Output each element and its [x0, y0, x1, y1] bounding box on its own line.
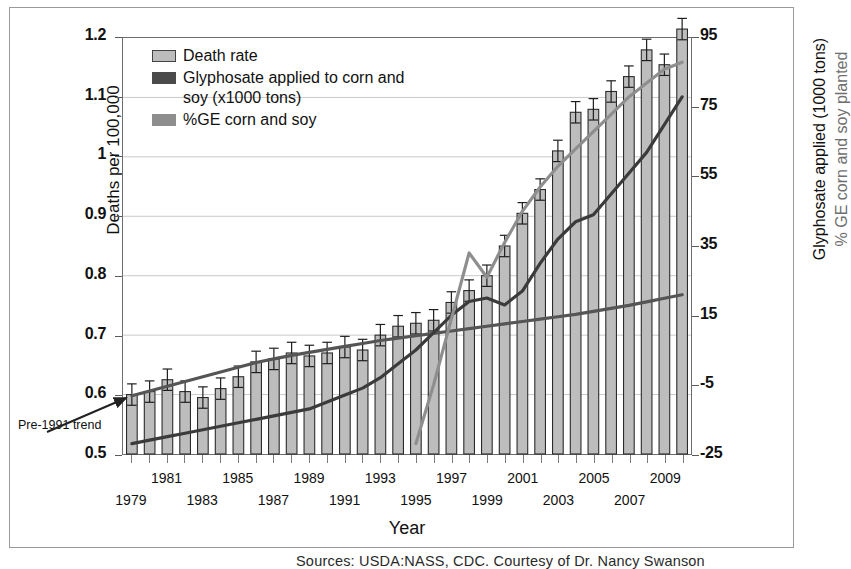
x-tick	[576, 455, 577, 463]
x-tick	[273, 455, 274, 463]
x-tick	[558, 455, 559, 463]
y-tick-left	[115, 455, 122, 456]
legend-swatch-death-rate	[152, 50, 176, 62]
y-tick-label-right: -25	[700, 444, 722, 462]
x-tick	[434, 455, 435, 463]
x-tick	[612, 455, 613, 463]
y-axis-right-title-percent-ge: % GE corn and soy planted	[833, 19, 851, 279]
x-tick	[220, 455, 221, 463]
x-tick	[345, 455, 346, 463]
x-tick	[131, 455, 132, 463]
x-tick-label: 1979	[107, 492, 155, 508]
x-tick	[416, 455, 417, 463]
y-tick-left	[115, 216, 122, 217]
y-tick-label-left: 0.8	[85, 265, 106, 283]
x-tick-label: 1987	[249, 492, 297, 508]
x-tick-label: 1999	[463, 492, 511, 508]
x-tick	[630, 455, 631, 463]
x-tick	[149, 455, 150, 463]
x-tick	[380, 455, 381, 463]
legend-swatch-glyphosate	[152, 72, 176, 84]
x-tick-label: 1997	[428, 470, 476, 486]
y-tick-right	[692, 37, 699, 38]
x-tick	[256, 455, 257, 463]
y-tick-label-left: 0.9	[85, 205, 106, 223]
x-tick	[594, 455, 595, 463]
legend-item-percent-ge: %GE corn and soy	[152, 110, 433, 130]
y-tick-label-right: 15	[700, 305, 717, 323]
x-tick-label: 2003	[534, 492, 582, 508]
y-tick-right	[692, 316, 699, 317]
legend-label-death-rate: Death rate	[183, 46, 258, 66]
x-tick	[683, 455, 684, 463]
figure-caption: Sources: USDA:NASS, CDC. Courtesy of Dr.…	[296, 553, 705, 569]
x-tick	[327, 455, 328, 463]
legend-swatch-percent-ge	[152, 114, 176, 126]
x-tick	[291, 455, 292, 463]
y-tick-label-left: 1	[97, 145, 106, 163]
x-tick-label: 1989	[285, 470, 333, 486]
x-tick-label: 1983	[178, 492, 226, 508]
y-tick-label-right: -5	[700, 374, 714, 392]
x-tick	[452, 455, 453, 463]
y-tick-label-left: 0.7	[85, 325, 106, 343]
x-tick	[523, 455, 524, 463]
y-tick-label-right: 95	[700, 26, 717, 44]
x-tick-label: 2005	[570, 470, 618, 486]
x-tick	[362, 455, 363, 463]
y-tick-label-left: 1.1	[85, 86, 106, 104]
y-tick-left	[115, 156, 122, 157]
y-tick-label-left: 0.5	[85, 444, 106, 462]
y-tick-left	[115, 37, 122, 38]
y-tick-right	[692, 107, 699, 108]
legend-label-glyphosate: Glyphosate applied to corn and soy (x100…	[183, 68, 433, 108]
x-tick-label: 1981	[143, 470, 191, 486]
x-tick	[167, 455, 168, 463]
y-tick-left	[115, 336, 122, 337]
y-tick-label-right: 35	[700, 235, 717, 253]
y-tick-left	[115, 395, 122, 396]
x-tick	[469, 455, 470, 463]
x-axis-title: Year	[122, 518, 692, 539]
y-axis-left-title: Deaths per 100,000	[104, 40, 124, 280]
legend-item-glyphosate: Glyphosate applied to corn and soy (x100…	[152, 68, 433, 108]
x-tick	[238, 455, 239, 463]
x-tick-label: 2001	[499, 470, 547, 486]
y-tick-right	[692, 455, 699, 456]
x-tick	[665, 455, 666, 463]
y-tick-right	[692, 176, 699, 177]
y-tick-label-right: 55	[700, 165, 717, 183]
legend-item-death-rate: Death rate	[152, 46, 433, 66]
y-tick-label-left: 1.2	[85, 26, 106, 44]
x-tick	[541, 455, 542, 463]
y-axis-right-title-glyphosate: Glyphosate applied (1000 tons)	[811, 19, 829, 279]
y-tick-label-right: 75	[700, 96, 717, 114]
y-tick-label-left: 0.6	[85, 384, 106, 402]
x-tick-label: 2009	[641, 470, 689, 486]
x-tick-label: 1993	[356, 470, 404, 486]
x-tick	[202, 455, 203, 463]
x-tick	[309, 455, 310, 463]
x-tick	[647, 455, 648, 463]
x-tick-label: 1985	[214, 470, 262, 486]
x-tick	[184, 455, 185, 463]
legend: Death rateGlyphosate applied to corn and…	[152, 46, 433, 132]
y-tick-right	[692, 385, 699, 386]
x-tick-label: 1995	[392, 492, 440, 508]
x-tick-label: 2007	[606, 492, 654, 508]
x-tick	[487, 455, 488, 463]
y-tick-left	[115, 276, 122, 277]
x-tick-label: 1991	[321, 492, 369, 508]
pre-1991-trend-annotation: Pre-1991 trend	[18, 418, 102, 432]
x-tick	[398, 455, 399, 463]
legend-label-percent-ge: %GE corn and soy	[183, 110, 316, 130]
x-tick	[505, 455, 506, 463]
y-tick-left	[115, 97, 122, 98]
y-tick-right	[692, 246, 699, 247]
